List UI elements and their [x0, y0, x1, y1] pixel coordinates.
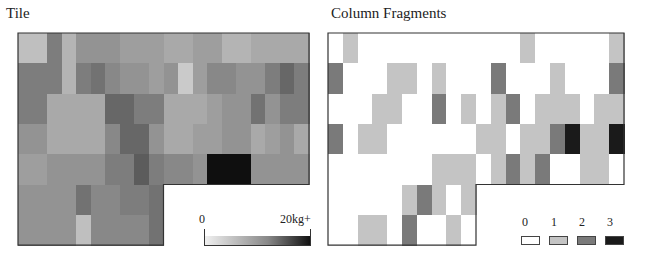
heatmap-cell	[535, 63, 550, 94]
heatmap-cell	[461, 33, 476, 64]
heatmap-cell	[33, 215, 48, 246]
heatmap-cell	[91, 185, 106, 216]
legend-swatch-2	[577, 236, 596, 245]
heatmap-cell	[594, 33, 609, 64]
heatmap-cell	[358, 63, 373, 94]
heatmap-cell	[387, 154, 402, 185]
heatmap-cell	[62, 63, 77, 94]
heatmap-cell	[18, 94, 33, 125]
heatmap-cell	[343, 124, 358, 155]
heatmap-cell	[105, 185, 120, 216]
heatmap-cell	[609, 33, 624, 64]
heatmap-cell	[372, 124, 387, 155]
heatmap-cell	[105, 63, 120, 94]
heatmap-cell	[387, 63, 402, 94]
heatmap-cell	[594, 94, 609, 125]
heatmap-cell	[343, 154, 358, 185]
heatmap-cell	[251, 94, 266, 125]
colorbar-right-tick	[310, 229, 311, 246]
heatmap-cell	[432, 154, 447, 185]
heatmap-cell	[134, 185, 149, 216]
heatmap-cell	[236, 63, 251, 94]
heatmap-cell	[149, 185, 164, 216]
legend-label-0: 0	[522, 215, 528, 230]
heatmap-cell	[550, 124, 565, 155]
heatmap-cell	[193, 63, 208, 94]
heatmap-cell	[62, 185, 77, 216]
heatmap-cell	[105, 124, 120, 155]
heatmap-cell	[506, 124, 521, 155]
heatmap-cell	[76, 63, 91, 94]
column-fragments-chart-title: Column Fragments	[331, 5, 446, 22]
heatmap-cell	[236, 33, 251, 64]
heatmap-cell	[402, 63, 417, 94]
heatmap-cell	[328, 154, 343, 185]
heatmap-cell	[91, 33, 106, 64]
heatmap-cell	[328, 215, 343, 246]
heatmap-cell	[33, 154, 48, 185]
heatmap-cell	[33, 185, 48, 216]
heatmap-cell	[565, 154, 580, 185]
heatmap-cell	[207, 154, 222, 185]
heatmap-cell	[535, 154, 550, 185]
heatmap-cell	[294, 33, 309, 64]
heatmap-cell	[565, 94, 580, 125]
heatmap-cell	[265, 154, 280, 185]
heatmap-cell	[491, 94, 506, 125]
heatmap-cell	[387, 185, 402, 216]
heatmap-cell	[417, 154, 432, 185]
heatmap-cell	[193, 124, 208, 155]
heatmap-cell	[62, 215, 77, 246]
heatmap-cell	[294, 63, 309, 94]
heatmap-cell	[236, 124, 251, 155]
heatmap-cell	[33, 33, 48, 64]
heatmap-cell	[358, 94, 373, 125]
heatmap-cell	[62, 124, 77, 155]
heatmap-cell	[251, 63, 266, 94]
heatmap-cell	[149, 215, 164, 246]
heatmap-cell	[328, 33, 343, 64]
heatmap-cell	[387, 33, 402, 64]
heatmap-cell	[358, 215, 373, 246]
heatmap-cell	[535, 94, 550, 125]
heatmap-cell	[236, 94, 251, 125]
heatmap-cell	[550, 154, 565, 185]
heatmap-cell	[47, 185, 62, 216]
legend-label-3: 3	[607, 215, 613, 230]
heatmap-cell	[18, 63, 33, 94]
heatmap-cell	[402, 154, 417, 185]
heatmap-cell	[193, 154, 208, 185]
heatmap-cell	[294, 124, 309, 155]
heatmap-cell	[461, 94, 476, 125]
heatmap-cell	[178, 63, 193, 94]
heatmap-cell	[76, 94, 91, 125]
heatmap-cell	[105, 33, 120, 64]
heatmap-cell	[47, 33, 62, 64]
heatmap-cell	[47, 124, 62, 155]
heatmap-cell	[476, 63, 491, 94]
heatmap-cell	[461, 154, 476, 185]
heatmap-cell	[432, 124, 447, 155]
heatmap-cell	[164, 94, 179, 125]
colorbar-min-label: 0	[199, 212, 205, 227]
heatmap-cell	[164, 33, 179, 64]
heatmap-cell	[609, 63, 624, 94]
heatmap-cell	[328, 185, 343, 216]
heatmap-cell	[417, 124, 432, 155]
heatmap-cell	[164, 63, 179, 94]
heatmap-cell	[62, 154, 77, 185]
heatmap-cell	[149, 33, 164, 64]
heatmap-cell	[178, 94, 193, 125]
heatmap-cell	[491, 154, 506, 185]
heatmap-cell	[76, 33, 91, 64]
heatmap-cell	[520, 94, 535, 125]
heatmap-cell	[280, 154, 295, 185]
heatmap-cell	[294, 154, 309, 185]
heatmap-cell	[47, 154, 62, 185]
heatmap-cell	[432, 94, 447, 125]
colorbar-baseline	[204, 245, 311, 246]
heatmap-cell	[294, 94, 309, 125]
heatmap-cell	[446, 154, 461, 185]
heatmap-cell	[594, 124, 609, 155]
heatmap-cell	[164, 154, 179, 185]
